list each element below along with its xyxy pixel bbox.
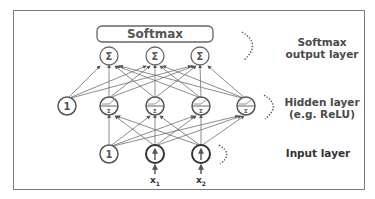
input-to-hidden-edges — [109, 115, 244, 147]
svg-text:Σ: Σ — [199, 108, 203, 114]
hidden-layer-nodes: 1 Σ Σ Σ Σ — [58, 97, 255, 115]
input-layer-nodes: 1 — [100, 145, 210, 174]
hidden-bracket — [264, 95, 273, 119]
output-node-sigma-icon: Σ — [191, 47, 209, 65]
svg-text:Σ: Σ — [244, 108, 248, 114]
svg-text:Σ: Σ — [153, 108, 157, 114]
svg-text:Σ: Σ — [197, 51, 204, 62]
output-layer-label: Softmax output layer — [282, 36, 362, 60]
input-node-x2 — [192, 145, 210, 174]
input-layer-label: Input layer — [276, 147, 360, 159]
output-node-sigma-icon: Σ — [146, 47, 164, 65]
svg-text:1: 1 — [64, 101, 71, 112]
hidden-node-relu-icon: Σ — [146, 97, 164, 115]
hidden-to-output-edges — [67, 65, 246, 99]
output-bracket — [242, 32, 253, 60]
input-bias-node: 1 — [100, 145, 118, 163]
hidden-layer-label: Hidden layer (e.g. ReLU) — [280, 96, 364, 120]
svg-text:Σ: Σ — [152, 51, 159, 62]
input-bracket — [219, 145, 227, 164]
x1-label: x1 — [147, 174, 163, 190]
svg-text:Σ: Σ — [106, 51, 113, 62]
output-layer-nodes: Σ Σ Σ — [100, 47, 209, 65]
svg-text:Σ: Σ — [107, 108, 111, 114]
softmax-box-label: Softmax — [97, 26, 213, 42]
hidden-node-relu-icon: Σ — [237, 97, 255, 115]
input-node-x1 — [146, 145, 164, 174]
hidden-node-relu-icon: Σ — [100, 97, 118, 115]
output-node-sigma-icon: Σ — [100, 47, 118, 65]
hidden-bias-node: 1 — [58, 97, 76, 115]
hidden-node-relu-icon: Σ — [192, 97, 210, 115]
x2-label: x2 — [193, 174, 209, 190]
svg-text:1: 1 — [106, 149, 113, 160]
